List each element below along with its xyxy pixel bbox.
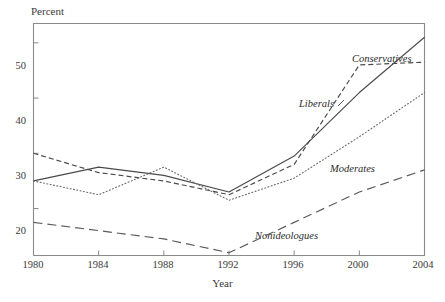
series-line-liberals <box>34 62 425 195</box>
chart-plot-area <box>0 0 445 302</box>
series-line-conservatives <box>34 37 425 192</box>
label-leader-lines <box>338 100 344 106</box>
axis-ticks <box>34 43 425 256</box>
plot-frame <box>34 24 425 256</box>
chart-figure: Percent Year 50 40 30 20 1980 1984 1988 … <box>0 0 445 302</box>
series-line-moderates <box>34 93 425 201</box>
series-line-nonideologues <box>34 170 425 253</box>
series-lines <box>34 37 425 252</box>
